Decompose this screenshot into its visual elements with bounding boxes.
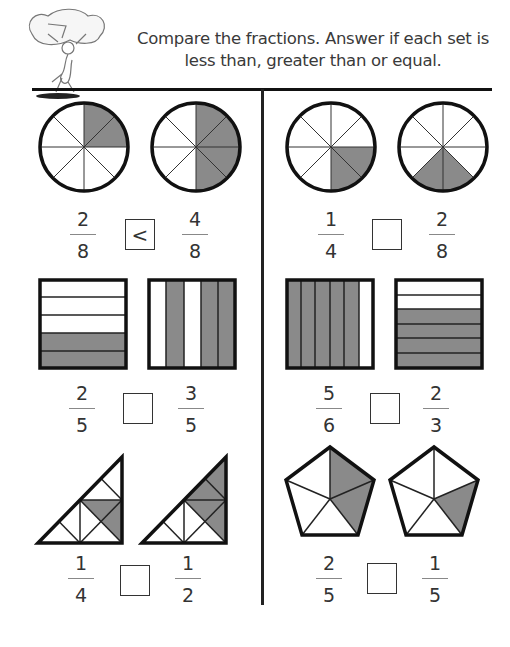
fraction-right-2: 28 [422, 207, 462, 263]
fraction-left-6: 25 [309, 551, 349, 607]
pentagon-1-of-5 [386, 443, 482, 539]
circle-2-of-8-b [395, 99, 491, 195]
square-rows-4-of-6 [394, 278, 484, 370]
fraction-left-5: 14 [61, 551, 101, 607]
fraction-right-5: 12 [168, 551, 208, 607]
circle-4-of-8 [148, 99, 244, 195]
ant-mascot-icon [18, 4, 114, 100]
fraction-left-1: 28 [63, 207, 103, 263]
instructions-text: Compare the fractions. Answer if each se… [128, 28, 498, 72]
answer-box-5[interactable] [120, 565, 150, 596]
fraction-left-2: 14 [311, 207, 351, 263]
answer-box-1[interactable]: < [125, 219, 155, 250]
fraction-right-3: 35 [171, 381, 211, 437]
answer-box-2[interactable] [372, 219, 402, 250]
column-divider [261, 89, 264, 605]
fraction-right-6: 15 [415, 551, 455, 607]
fraction-right-4: 23 [416, 381, 456, 437]
circle-1-of-4 [283, 99, 379, 195]
answer-box-4[interactable] [370, 393, 400, 424]
pentagon-2-of-5 [282, 443, 378, 539]
square-columns-3-of-5 [147, 278, 237, 370]
answer-box-3[interactable] [123, 393, 153, 424]
triangle-1-of-2 [138, 453, 230, 547]
answer-box-6[interactable] [367, 563, 397, 594]
fraction-left-4: 56 [309, 381, 349, 437]
fraction-left-3: 25 [62, 381, 102, 437]
square-columns-5-of-6 [285, 278, 375, 370]
triangle-1-of-4 [34, 453, 126, 547]
circle-2-of-8 [36, 99, 132, 195]
fraction-right-1: 48 [175, 207, 215, 263]
square-rows-2-of-5 [38, 278, 128, 370]
